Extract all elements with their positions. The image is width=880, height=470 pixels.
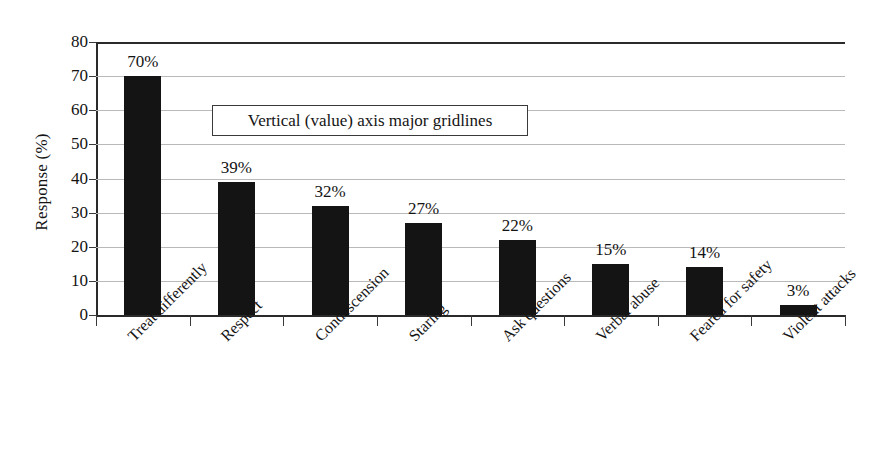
x-tick-mark bbox=[564, 315, 565, 326]
bar-value-label: 22% bbox=[487, 217, 547, 234]
y-tick-mark bbox=[89, 315, 96, 316]
y-tick-mark bbox=[89, 42, 96, 43]
plot-area: 70%39%32%27%22%15%14%3% bbox=[96, 42, 845, 315]
gridline bbox=[96, 281, 845, 282]
y-tick-label: 0 bbox=[54, 306, 88, 323]
x-tick-mark bbox=[845, 315, 846, 326]
y-tick-mark bbox=[89, 281, 96, 282]
gridline bbox=[96, 213, 845, 214]
y-axis-tick-labels: 01020304050607080 bbox=[50, 42, 88, 315]
y-axis-title: Response (%) bbox=[32, 62, 52, 302]
y-tick-mark bbox=[89, 110, 96, 111]
y-tick-label: 50 bbox=[54, 135, 88, 152]
bar-value-label: 27% bbox=[394, 200, 454, 217]
gridline bbox=[96, 144, 845, 145]
plot-top-border bbox=[96, 42, 845, 44]
bar-value-label: 39% bbox=[206, 159, 266, 176]
bar[interactable] bbox=[124, 76, 161, 315]
x-tick-mark bbox=[658, 315, 659, 326]
gridline bbox=[96, 76, 845, 77]
bar[interactable] bbox=[218, 182, 255, 315]
x-tick-mark bbox=[751, 315, 752, 326]
gridlines-callout-text: Vertical (value) axis major gridlines bbox=[248, 111, 493, 131]
y-tick-mark bbox=[89, 179, 96, 180]
bar-value-label: 32% bbox=[300, 183, 360, 200]
bar-value-label: 14% bbox=[675, 244, 735, 261]
bar-value-label: 70% bbox=[113, 53, 173, 70]
x-tick-mark bbox=[96, 315, 97, 326]
y-tick-label: 60 bbox=[54, 101, 88, 118]
x-tick-mark bbox=[283, 315, 284, 326]
x-tick-mark bbox=[471, 315, 472, 326]
y-tick-label: 30 bbox=[54, 204, 88, 221]
y-tick-mark bbox=[89, 213, 96, 214]
bar-chart: Response (%) 01020304050607080 70%39%32%… bbox=[0, 0, 880, 470]
y-tick-label: 10 bbox=[54, 272, 88, 289]
x-tick-mark bbox=[190, 315, 191, 326]
y-tick-mark bbox=[89, 144, 96, 145]
bar-value-label: 15% bbox=[581, 241, 641, 258]
y-tick-label: 20 bbox=[54, 238, 88, 255]
x-tick-mark bbox=[377, 315, 378, 326]
gridlines-callout-box: Vertical (value) axis major gridlines bbox=[212, 105, 528, 136]
y-tick-label: 70 bbox=[54, 67, 88, 84]
y-tick-label: 80 bbox=[54, 33, 88, 50]
y-tick-mark bbox=[89, 76, 96, 77]
y-tick-mark bbox=[89, 247, 96, 248]
gridline bbox=[96, 179, 845, 180]
y-tick-label: 40 bbox=[54, 170, 88, 187]
